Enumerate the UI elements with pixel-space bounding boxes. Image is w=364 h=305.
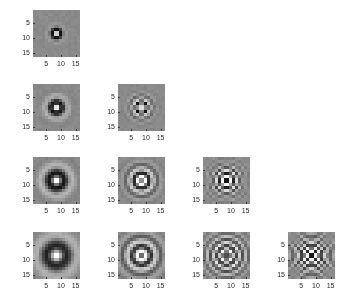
kernel-bitmap — [33, 232, 80, 279]
kernel-image-r2c1 — [33, 84, 80, 131]
x-tick-mark — [76, 55, 77, 57]
y-tick-label: 15 — [14, 271, 30, 278]
x-tick-mark — [161, 277, 162, 279]
x-tick-mark — [61, 55, 62, 57]
kernel-panel-r4c1: 5101551015 — [33, 232, 80, 279]
kernel-image-r1c1 — [33, 10, 80, 57]
y-tick-mark — [33, 185, 35, 186]
y-tick-mark — [118, 260, 120, 261]
x-tick-mark — [76, 129, 77, 131]
y-tick-mark — [33, 127, 35, 128]
kernel-image-r4c4 — [288, 232, 335, 279]
y-tick-mark — [118, 275, 120, 276]
x-tick-mark — [316, 277, 317, 279]
x-tick-label: 15 — [151, 282, 171, 289]
x-tick-mark — [146, 129, 147, 131]
x-tick-mark — [46, 202, 47, 204]
y-tick-mark — [118, 97, 120, 98]
x-tick-mark — [161, 129, 162, 131]
kernel-bitmap — [118, 84, 165, 131]
y-tick-label: 15 — [99, 271, 115, 278]
y-tick-label: 10 — [99, 181, 115, 188]
x-tick-mark — [131, 277, 132, 279]
x-tick-label: 15 — [236, 207, 256, 214]
x-tick-mark — [246, 202, 247, 204]
x-tick-mark — [76, 202, 77, 204]
x-tick-label: 15 — [151, 207, 171, 214]
y-tick-label: 10 — [184, 181, 200, 188]
y-tick-mark — [33, 112, 35, 113]
y-tick-label: 10 — [14, 256, 30, 263]
y-tick-mark — [33, 245, 35, 246]
kernel-bitmap — [118, 232, 165, 279]
y-tick-label: 10 — [269, 256, 285, 263]
x-tick-mark — [131, 129, 132, 131]
kernel-bitmap — [33, 10, 80, 57]
y-tick-mark — [288, 275, 290, 276]
y-tick-mark — [203, 170, 205, 171]
y-tick-mark — [203, 245, 205, 246]
y-tick-mark — [118, 127, 120, 128]
y-tick-label: 5 — [14, 93, 30, 100]
y-tick-mark — [33, 170, 35, 171]
y-tick-label: 15 — [14, 123, 30, 130]
y-tick-mark — [203, 200, 205, 201]
x-tick-mark — [246, 277, 247, 279]
y-tick-label: 10 — [14, 181, 30, 188]
y-tick-mark — [118, 245, 120, 246]
kernel-panel-r4c3: 5101551015 — [203, 232, 250, 279]
y-tick-label: 10 — [14, 108, 30, 115]
y-tick-label: 15 — [14, 49, 30, 56]
kernel-panel-r2c2: 5101551015 — [118, 84, 165, 131]
y-tick-label: 10 — [99, 256, 115, 263]
y-tick-mark — [33, 38, 35, 39]
y-tick-mark — [33, 23, 35, 24]
x-tick-mark — [46, 277, 47, 279]
kernel-image-r3c3 — [203, 157, 250, 204]
kernel-panel-r1c1: 5101551015 — [33, 10, 80, 57]
kernel-bitmap — [203, 232, 250, 279]
x-tick-mark — [231, 277, 232, 279]
x-tick-mark — [61, 129, 62, 131]
x-tick-mark — [46, 55, 47, 57]
y-tick-mark — [288, 245, 290, 246]
y-tick-mark — [33, 97, 35, 98]
y-tick-mark — [203, 185, 205, 186]
y-tick-label: 15 — [184, 271, 200, 278]
y-tick-mark — [118, 170, 120, 171]
y-tick-label: 15 — [269, 271, 285, 278]
y-tick-label: 5 — [14, 19, 30, 26]
y-tick-mark — [203, 260, 205, 261]
y-tick-label: 5 — [184, 241, 200, 248]
y-tick-label: 15 — [99, 123, 115, 130]
x-tick-label: 15 — [66, 282, 86, 289]
kernel-panel-r4c2: 5101551015 — [118, 232, 165, 279]
kernel-panel-r4c4: 5101551015 — [288, 232, 335, 279]
y-tick-label: 5 — [269, 241, 285, 248]
x-tick-mark — [76, 277, 77, 279]
x-tick-mark — [216, 277, 217, 279]
y-tick-label: 10 — [99, 108, 115, 115]
x-tick-mark — [216, 202, 217, 204]
kernel-panel-r2c1: 5101551015 — [33, 84, 80, 131]
y-tick-label: 15 — [184, 196, 200, 203]
kernel-panel-r3c3: 5101551015 — [203, 157, 250, 204]
kernel-panel-r3c1: 5101551015 — [33, 157, 80, 204]
x-tick-mark — [301, 277, 302, 279]
kernel-bitmap — [33, 84, 80, 131]
y-tick-mark — [33, 260, 35, 261]
kernel-bitmap — [203, 157, 250, 204]
x-tick-mark — [46, 129, 47, 131]
y-tick-label: 5 — [14, 166, 30, 173]
x-tick-mark — [131, 202, 132, 204]
x-tick-mark — [161, 202, 162, 204]
kernel-image-r4c1 — [33, 232, 80, 279]
x-tick-mark — [231, 202, 232, 204]
x-tick-label: 15 — [66, 134, 86, 141]
kernel-image-r2c2 — [118, 84, 165, 131]
x-tick-mark — [61, 202, 62, 204]
kernel-panel-r3c2: 5101551015 — [118, 157, 165, 204]
x-tick-mark — [146, 202, 147, 204]
kernel-image-r3c2 — [118, 157, 165, 204]
y-tick-label: 5 — [99, 93, 115, 100]
